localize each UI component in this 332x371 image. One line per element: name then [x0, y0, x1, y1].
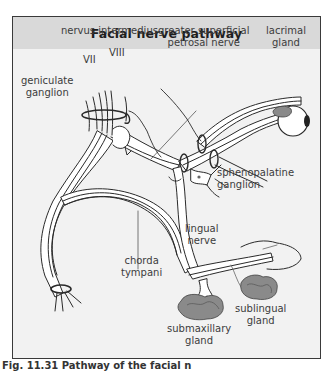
label-chorda-tympani: chorda tympani [121, 255, 162, 279]
label-greater-superficial-petrosal-nerve: greater superficial petrosal nerve [158, 25, 250, 49]
label-sphenopalatine-ganglion: sphenopalatine ganglion [217, 167, 294, 191]
label-lacrimal-gland: lacrimal gland [266, 25, 306, 49]
lacrimal-gland-shape [273, 106, 292, 117]
figure-caption: Fig. 11.31 Pathway of the facial n [2, 360, 191, 371]
label-vii: VII [83, 54, 96, 66]
label-viii: VIII [109, 47, 125, 59]
submaxillary-gland-shape [178, 294, 223, 319]
label-sublingual-gland: sublingual gland [235, 303, 286, 327]
label-lingual-nerve: lingual nerve [185, 223, 219, 247]
figure-frame: Facial nerve pathway [12, 16, 321, 359]
label-nervus-intermedius: nervus intermedius [61, 25, 158, 37]
label-submaxillary-gland: submaxillary gland [167, 323, 231, 347]
label-geniculate-ganglion: geniculate ganglion [21, 75, 73, 99]
sublingual-gland-shape [241, 275, 278, 300]
